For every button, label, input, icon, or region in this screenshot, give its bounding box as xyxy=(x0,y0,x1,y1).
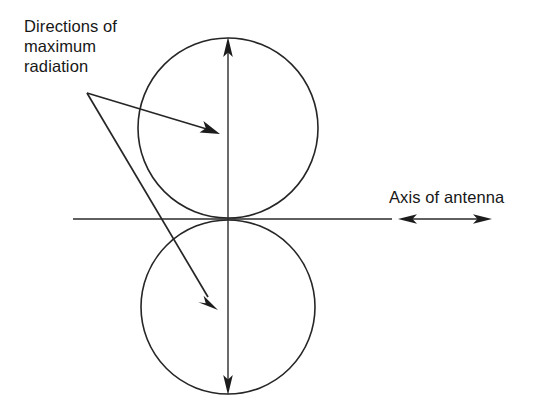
leader-arrow-lower-head xyxy=(198,296,218,310)
diagram-canvas: Directions of maximum radiation Axis of … xyxy=(0,0,547,417)
max-radiation-label-line3: radiation xyxy=(24,57,88,75)
axis-of-antenna-label: Axis of antenna xyxy=(389,188,505,206)
antenna-radiation-pattern-diagram: Directions of maximum radiation Axis of … xyxy=(0,0,547,417)
max-radiation-label-line2: maximum xyxy=(24,37,96,55)
max-radiation-label-line1: Directions of xyxy=(24,17,117,35)
